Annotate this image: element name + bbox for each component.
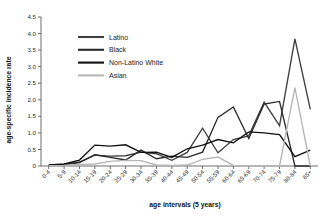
y-tick-label: 3.5 xyxy=(27,46,36,53)
x-tick-label: 55-59 xyxy=(206,169,222,185)
y-tick-label: 4.0 xyxy=(27,30,36,37)
x-tick-label: 35-39 xyxy=(144,169,160,185)
legend-label-black: Black xyxy=(109,46,127,53)
x-tick-label: 65-69 xyxy=(236,169,252,185)
x-tick-label: 70-74 xyxy=(252,169,268,185)
x-tick-label: 20-24 xyxy=(98,169,114,185)
x-axis-title: age intervals (5 years) xyxy=(149,201,220,209)
y-axis-title: age-specific incidence rate xyxy=(5,56,13,143)
x-tick-label: 15-19 xyxy=(82,169,98,185)
y-axis-ticks: 00.51.01.52.02.53.03.54.04.5 xyxy=(27,13,41,169)
y-tick-label: 3.0 xyxy=(27,63,36,70)
chart-figure: 00.51.01.52.02.53.03.54.04.5 0-45-910-14… xyxy=(0,0,330,221)
x-tick-label: 85+ xyxy=(302,169,314,181)
y-tick-label: 0.5 xyxy=(27,146,36,153)
series-line-latino xyxy=(49,39,311,165)
x-tick-label: 0-4 xyxy=(41,168,52,179)
legend-label-latino: Latino xyxy=(109,34,128,41)
x-tick-label: 75-79 xyxy=(267,169,283,185)
line-chart: 00.51.01.52.02.53.03.54.04.5 0-45-910-14… xyxy=(0,0,330,221)
x-tick-label: 80-84 xyxy=(283,169,299,185)
data-series-group xyxy=(49,39,311,166)
x-tick-label: 5-9 xyxy=(56,168,67,179)
y-tick-label: 0 xyxy=(33,162,37,169)
y-tick-label: 1.5 xyxy=(27,112,36,119)
x-tick-label: 30-34 xyxy=(129,169,145,185)
legend-label-asian: Asian xyxy=(109,72,127,79)
y-tick-label: 4.5 xyxy=(27,13,36,20)
y-tick-label: 2.0 xyxy=(27,96,36,103)
chart-legend: LatinoBlackNon-Latino WhiteAsian xyxy=(78,34,163,79)
x-axis-ticks: 0-45-910-1415-1920-2425-2930-3435-3940-4… xyxy=(41,166,313,184)
series-line-non-latino-white xyxy=(49,132,311,165)
y-tick-label: 1.0 xyxy=(27,129,36,136)
x-tick-label: 40-44 xyxy=(159,169,175,185)
x-tick-label: 60-64 xyxy=(221,169,237,185)
x-tick-label: 25-29 xyxy=(113,169,129,185)
y-tick-label: 2.5 xyxy=(27,79,36,86)
series-line-asian xyxy=(49,88,311,166)
legend-label-non-latino-white: Non-Latino White xyxy=(109,59,163,66)
x-tick-label: 10-14 xyxy=(67,169,83,185)
x-tick-label: 50-54 xyxy=(190,169,206,185)
x-tick-label: 45-49 xyxy=(175,169,191,185)
